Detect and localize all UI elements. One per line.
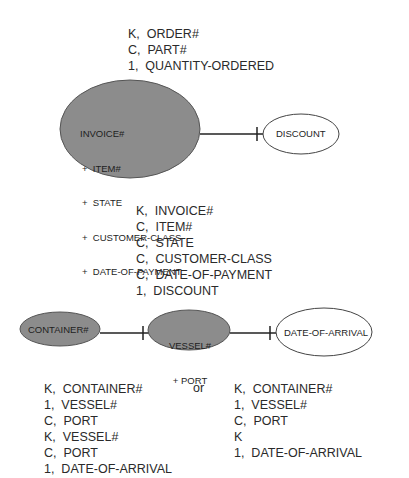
key-row: C, ITEM# bbox=[136, 219, 272, 235]
key-row: C, PORT bbox=[44, 445, 172, 461]
key-row: 1, DATE-OF-ARRIVAL bbox=[234, 445, 362, 461]
key-row: K, VESSEL# bbox=[44, 429, 172, 445]
order-key-block: K, ORDER# C, PART# 1, QUANTITY-ORDERED bbox=[128, 26, 274, 74]
date-arrival-entity-label: DATE-OF-ARRIVAL bbox=[284, 327, 368, 339]
key-row: K, INVOICE# bbox=[136, 203, 272, 219]
key-row: C, STATE bbox=[136, 235, 272, 251]
key-row: 1, QUANTITY-ORDERED bbox=[128, 58, 274, 74]
key-row: C, CUSTOMER-CLASS bbox=[136, 251, 272, 267]
discount-entity-label: DISCOUNT bbox=[276, 128, 326, 140]
key-row: 1, VESSEL# bbox=[44, 397, 172, 413]
key-row: 1, DATE-OF-ARRIVAL bbox=[44, 461, 172, 477]
or-separator: or bbox=[193, 381, 204, 395]
vessel-entity-label: VESSEL# + PORT bbox=[167, 317, 213, 398]
key-row: 1, VESSEL# bbox=[234, 397, 362, 413]
container-key-block-option-b: K, CONTAINER# 1, VESSEL# C, PORT K 1, DA… bbox=[234, 381, 362, 461]
container-key-block-option-a: K, CONTAINER# 1, VESSEL# C, PORT K, VESS… bbox=[44, 381, 172, 477]
key-row: K, CONTAINER# bbox=[234, 381, 362, 397]
container-entity-label: CONTAINER# bbox=[28, 324, 89, 336]
key-row: C, DATE-OF-PAYMENT bbox=[136, 267, 272, 283]
key-row: C, PORT bbox=[234, 413, 362, 429]
key-row: 1, DISCOUNT bbox=[136, 283, 272, 299]
key-row: C, PART# bbox=[128, 42, 274, 58]
key-row: K bbox=[234, 429, 362, 445]
key-row: K, ORDER# bbox=[128, 26, 274, 42]
invoice-key-block: K, INVOICE# C, ITEM# C, STATE C, CUSTOME… bbox=[136, 203, 272, 299]
key-row: K, CONTAINER# bbox=[44, 381, 172, 397]
key-row: C, PORT bbox=[44, 413, 172, 429]
